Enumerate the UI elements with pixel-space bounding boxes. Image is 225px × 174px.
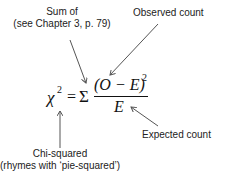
sum-arrow [70, 40, 86, 83]
observed-count-label: Observed count [133, 7, 204, 19]
numerator-exponent: 2 [142, 72, 147, 83]
chi-symbol: χ [47, 88, 54, 108]
denominator: E [114, 98, 124, 116]
sum-of-line1: Sum of [13, 6, 110, 18]
sigma-symbol: Σ [79, 87, 89, 107]
sum-of-line2: (see Chapter 3, p. 79) [13, 18, 110, 30]
chi-line1: Chi-squared [0, 148, 120, 160]
sum-of-label: Sum of (see Chapter 3, p. 79) [13, 6, 110, 30]
equals-sign: = [67, 88, 76, 106]
expected-arrow [131, 107, 158, 126]
chi-line2: (rhymes with ‘pie-squared’) [0, 160, 120, 172]
chi-exponent: 2 [57, 84, 62, 95]
numerator: (O − E) [94, 76, 145, 94]
observed-arrow [110, 24, 158, 75]
expected-count-label: Expected count [142, 129, 211, 141]
chi-squared-label: Chi-squared (rhymes with ‘pie-squared’) [0, 148, 120, 172]
fraction-bar [94, 96, 148, 97]
